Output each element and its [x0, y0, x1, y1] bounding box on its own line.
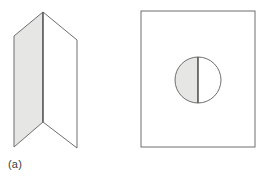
panel-b-drawing: [133, 0, 265, 178]
folded-sheet-right-face: [43, 12, 77, 148]
panel-b: (b): [133, 0, 265, 178]
figure-root: (a) (b): [0, 0, 265, 178]
panel-a-caption: (a): [8, 158, 22, 170]
panel-a: (a): [0, 0, 133, 178]
folded-sheet-left-face: [14, 12, 43, 147]
panel-a-drawing: [0, 0, 133, 178]
